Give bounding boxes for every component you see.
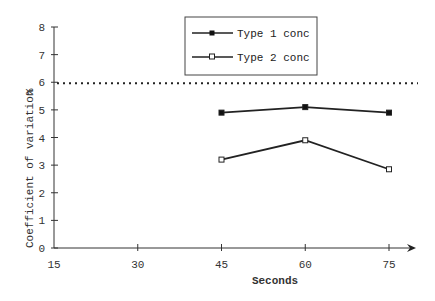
y-tick-label: 7: [38, 50, 45, 62]
legend-box: [185, 17, 317, 75]
series-2: [219, 138, 392, 172]
y-axis: 012345678: [38, 22, 58, 255]
x-tick-label: 75: [382, 259, 395, 271]
y-tick-label: 0: [38, 243, 45, 255]
filled-square-marker-icon: [210, 31, 215, 36]
legend: Type 1 conc Type 2 conc: [185, 17, 317, 75]
x-tick-label: 15: [47, 259, 60, 271]
y-tick-label: 3: [38, 160, 45, 172]
x-axis-title: Seconds: [252, 275, 298, 287]
svg-text:Type 2 conc: Type 2 conc: [237, 52, 310, 64]
filled-square-marker-icon: [219, 110, 224, 115]
data-series: [219, 105, 392, 172]
y-tick-label: 5: [38, 105, 45, 117]
filled-square-marker-icon: [303, 105, 308, 110]
y-tick-label: 4: [38, 133, 45, 145]
filled-square-marker-icon: [387, 110, 392, 115]
open-square-marker-icon: [303, 138, 308, 143]
y-tick-label: 2: [38, 188, 45, 200]
y-tick-label: 8: [38, 22, 45, 34]
series-1: [219, 105, 392, 116]
open-square-marker-icon: [219, 157, 224, 162]
open-square-marker-icon: [210, 54, 215, 59]
x-tick-label: 60: [299, 259, 312, 271]
y-tick-label: 1: [38, 215, 45, 227]
line-chart: 012345678 1530456075 Coefficient of vari…: [0, 0, 435, 301]
y-axis-title: Coefficient of variation: [24, 90, 36, 248]
x-axis: 1530456075: [47, 244, 416, 271]
x-tick-label: 30: [131, 259, 144, 271]
svg-text:Type 1 conc: Type 1 conc: [237, 28, 310, 40]
y-axis-unit: %: [24, 88, 36, 95]
open-square-marker-icon: [387, 167, 392, 172]
x-tick-label: 45: [215, 259, 228, 271]
y-tick-label: 6: [38, 77, 45, 89]
